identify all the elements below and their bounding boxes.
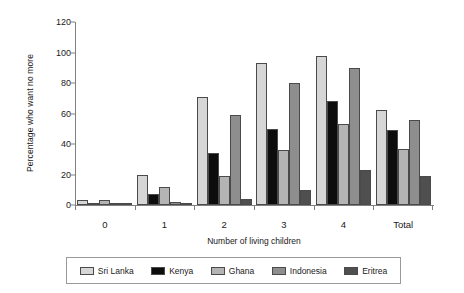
bar xyxy=(148,194,159,205)
bar xyxy=(338,124,349,205)
bar-group-bars xyxy=(373,22,433,205)
y-tick-label: 40 xyxy=(61,139,71,149)
legend-label: Kenya xyxy=(169,266,193,276)
plot-area: 020406080100120 01234Total xyxy=(75,22,433,205)
bar xyxy=(387,130,398,205)
bar-group: 1 xyxy=(135,22,195,205)
legend-item: Ghana xyxy=(211,266,255,276)
legend-label: Ghana xyxy=(229,266,255,276)
bar-group: 2 xyxy=(194,22,254,205)
bar xyxy=(398,149,409,205)
legend-item: Indonesia xyxy=(272,266,327,276)
bar-group: 0 xyxy=(75,22,135,205)
bar xyxy=(289,83,300,205)
bar xyxy=(230,115,241,205)
x-tick-mark xyxy=(75,205,76,210)
legend-item: Eritrea xyxy=(344,266,387,276)
x-tick-label: Total xyxy=(393,219,413,230)
y-tick-label: 20 xyxy=(61,170,71,180)
x-tick-mark xyxy=(314,205,315,210)
bar xyxy=(110,203,121,205)
bar xyxy=(409,120,420,205)
x-tick-label: 4 xyxy=(341,219,346,230)
legend-item: Sri Lanka xyxy=(80,266,134,276)
bar xyxy=(88,203,99,205)
bar-group: 3 xyxy=(254,22,314,205)
bar-group-bars xyxy=(75,22,135,205)
bar xyxy=(159,187,170,205)
bar xyxy=(197,97,208,205)
bar xyxy=(420,176,431,205)
bar xyxy=(170,202,181,205)
legend-label: Indonesia xyxy=(290,266,327,276)
x-tick-mark xyxy=(373,205,374,210)
y-axis-title: Percentage who want no more xyxy=(25,13,35,213)
bar xyxy=(208,153,219,205)
bar xyxy=(219,176,230,205)
y-tick-label: 80 xyxy=(61,78,71,88)
bar-group: 4 xyxy=(314,22,374,205)
legend-item: Kenya xyxy=(151,266,193,276)
bar xyxy=(360,170,371,205)
bar-chart: Percentage who want no more 020406080100… xyxy=(0,0,464,293)
bar xyxy=(77,200,88,205)
bar-groups: 01234Total xyxy=(75,22,433,205)
bar xyxy=(349,68,360,205)
bar-group-bars xyxy=(254,22,314,205)
bar xyxy=(241,199,252,205)
bar-group-bars xyxy=(135,22,195,205)
bar xyxy=(99,200,110,205)
x-tick-mark xyxy=(254,205,255,210)
x-tick-label: 0 xyxy=(102,219,107,230)
y-tick-label: 100 xyxy=(56,48,71,58)
bar xyxy=(256,63,267,205)
legend-swatch xyxy=(80,267,94,275)
bar xyxy=(267,129,278,205)
x-tick-mark xyxy=(135,205,136,210)
bar xyxy=(278,150,289,205)
legend-swatch xyxy=(272,267,286,275)
x-tick-label: 1 xyxy=(162,219,167,230)
legend-swatch xyxy=(211,267,225,275)
x-tick-mark xyxy=(432,205,433,210)
legend-swatch xyxy=(344,267,358,275)
legend-label: Sri Lanka xyxy=(98,266,134,276)
legend-label: Eritrea xyxy=(362,266,387,276)
bar xyxy=(327,101,338,205)
bar-group: Total xyxy=(373,22,433,205)
bar xyxy=(181,203,192,205)
bar xyxy=(316,56,327,205)
legend-swatch xyxy=(151,267,165,275)
bar xyxy=(376,110,387,205)
chart-legend: Sri LankaKenyaGhanaIndonesiaEritrea xyxy=(66,257,401,284)
bar-group-bars xyxy=(314,22,374,205)
bar xyxy=(121,203,132,205)
x-tick-label: 3 xyxy=(281,219,286,230)
bar xyxy=(137,175,148,206)
x-axis-title: Number of living children xyxy=(75,236,433,246)
x-tick-mark xyxy=(194,205,195,210)
x-tick-label: 2 xyxy=(222,219,227,230)
bar-group-bars xyxy=(194,22,254,205)
bar xyxy=(300,190,311,205)
y-tick-label: 60 xyxy=(61,109,71,119)
y-tick-label: 120 xyxy=(56,17,71,27)
